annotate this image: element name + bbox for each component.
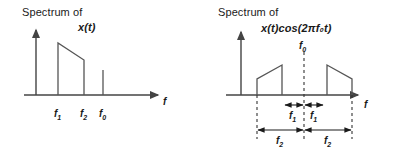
left-plot-svg [0,0,198,162]
right-outer-label-f2-right: f2 [324,135,331,148]
left-tick-label-f0: f0 [99,108,106,121]
right-outer-f2-left-sub: 2 [279,141,283,148]
left-spectrum-panel: Spectrum of x(t) f f1 f2 f0 [0,0,198,162]
right-upper-sideband-trapezoid [327,65,352,95]
left-tick-label-f2: f2 [80,108,87,121]
right-plot-svg [198,0,396,162]
right-axis-label-f: f [364,99,367,110]
figure-root: Spectrum of x(t) f f1 f2 f0 [0,0,396,162]
right-center-f0-sub: 0 [302,46,306,53]
right-center-label-f0: f0 [299,40,306,53]
left-spectrum-trapezoid [58,43,84,95]
right-lower-sideband-trapezoid [257,65,282,95]
right-inner-label-f1-left: f1 [289,110,296,123]
right-outer-f2-right-sub: 2 [327,141,331,148]
left-tick-f0-sub: 0 [102,114,106,121]
right-inner-label-f1-right: f1 [310,110,317,123]
left-tick-label-f1: f1 [54,108,61,121]
right-outer-label-f2-left: f2 [276,135,283,148]
right-inner-f1-right-sub: 1 [313,116,317,123]
left-tick-f1-sub: 1 [57,114,61,121]
right-inner-f1-left-sub: 1 [292,116,296,123]
right-spectrum-panel: Spectrum of x(t)cos(2πf₀t) [198,0,396,162]
left-axis-label-f: f [163,96,166,107]
left-tick-f2-sub: 2 [83,114,87,121]
